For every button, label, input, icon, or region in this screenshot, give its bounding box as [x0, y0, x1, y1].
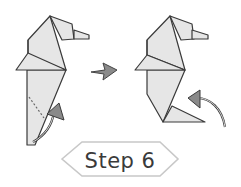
step-label: Step 6 — [65, 145, 175, 177]
right-arrow-icon — [91, 63, 117, 80]
seahorse-before-figure — [16, 16, 89, 145]
